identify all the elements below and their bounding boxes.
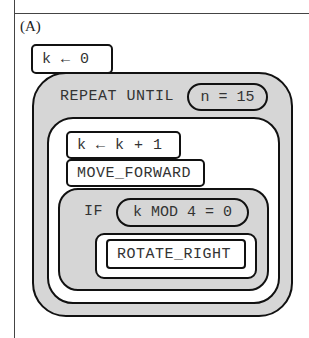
if-keyword: IF [84, 203, 103, 220]
top-border-line [14, 13, 309, 14]
rotate-right-statement: ROTATE_RIGHT [106, 239, 246, 269]
option-label: (A) [20, 18, 41, 35]
if-condition: k MOD 4 = 0 [116, 198, 249, 227]
repeat-until-keyword: REPEAT UNTIL [60, 88, 174, 105]
left-border-line [14, 0, 15, 338]
repeat-condition: n = 15 [187, 83, 268, 111]
init-statement: k ← 0 [31, 44, 113, 74]
increment-statement: k ← k + 1 [66, 131, 181, 159]
move-forward-statement: MOVE_FORWARD [66, 159, 205, 187]
